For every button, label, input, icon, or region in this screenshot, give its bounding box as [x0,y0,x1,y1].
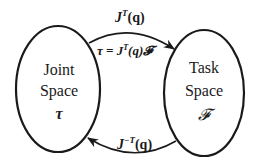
jacobian-arg: (q) [128,10,145,26]
svg-text:J−T(q): J−T(q) [116,135,152,153]
svg-text:τ = JT(q)𝓕: τ = JT(q)𝓕 [97,43,158,58]
inverse-jacobian-arg: (q) [135,137,152,153]
torque-equation-label: τ = JT(q)𝓕 [97,43,158,58]
task-space-label-line1: Task [189,59,219,76]
inverse-map-label: J−T(q) [116,135,152,153]
equation-lhs: τ = J [97,43,124,58]
svg-text:JT(q): JT(q) [114,8,145,26]
force-symbol: 𝓕 [198,105,216,124]
joint-space-node: Joint Space τ [16,26,100,152]
joint-space-label-line1: Joint [43,61,75,78]
equation-rhs: (q)𝓕 [128,43,158,58]
tau-symbol: τ [55,105,63,122]
forward-map-label: JT(q) [114,8,145,26]
task-space-node: Task Space 𝓕 [164,30,244,156]
joint-space-label-line2: Space [40,82,78,100]
task-space-label-line2: Space [185,82,223,100]
jacobian-mapping-diagram: Joint Space τ Task Space 𝓕 JT(q) τ = JT(… [0,0,259,163]
inverse-transpose-superscript: −T [124,135,135,145]
